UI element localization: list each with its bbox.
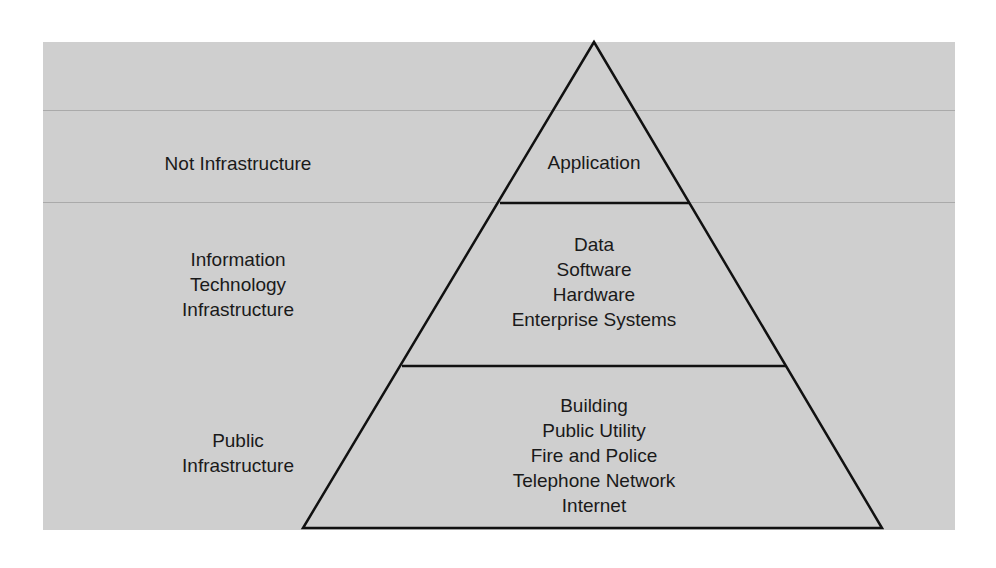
tier-it-components: Data Software Hardware Enterprise System…	[444, 232, 744, 332]
side-label-public-infrastructure: Public Infrastructure	[133, 428, 343, 478]
tier-application: Application	[494, 150, 694, 175]
tier-public-components: Building Public Utility Fire and Police …	[444, 393, 744, 518]
side-label-not-infrastructure: Not Infrastructure	[133, 151, 343, 176]
side-label-it-infrastructure: Information Technology Infrastructure	[133, 247, 343, 322]
